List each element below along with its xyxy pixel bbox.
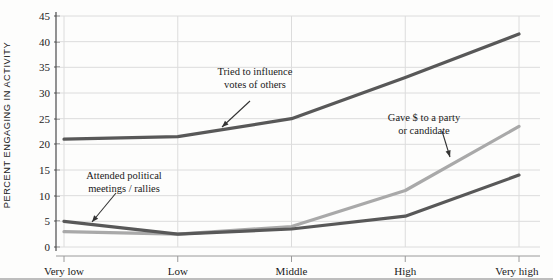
- chart-canvas: [0, 0, 553, 280]
- x-tick-label-1: Low: [168, 265, 188, 277]
- leader-arrowhead-1: [446, 150, 451, 157]
- x-tick-label-4: Very high: [495, 265, 538, 277]
- annot-influence: Tried to influence votes of others: [218, 66, 293, 92]
- x-tick-label-3: High: [394, 265, 416, 277]
- x-tick-label-0: Very low: [44, 265, 84, 277]
- gridlines: [56, 16, 540, 247]
- x-tick-label-2: Middle: [276, 265, 308, 277]
- annot-gave-money: Gave $ to a party or candidate: [388, 112, 460, 138]
- chart-figure: PERCENT ENGAGING IN ACTIVITY 05101520253…: [0, 0, 553, 280]
- annot-meetings: Attended political meetings / rallies: [86, 170, 162, 196]
